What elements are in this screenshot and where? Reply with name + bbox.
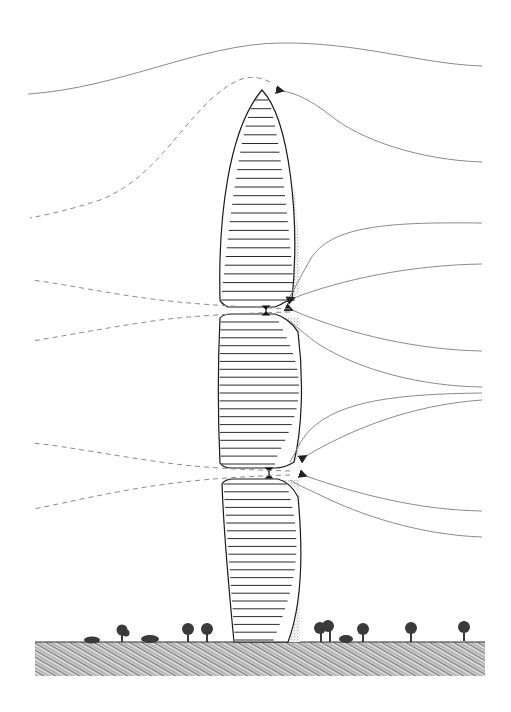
tower-segment-lower — [222, 479, 301, 642]
ground — [35, 642, 485, 676]
tower — [219, 90, 302, 642]
tree-icon — [458, 621, 470, 641]
tower-segment-upper — [220, 90, 295, 307]
tower-segment-middle — [219, 314, 302, 468]
streamline-lower-gap-4 — [290, 480, 482, 537]
tree-icon — [182, 623, 194, 642]
streamline-upper-gap-4 — [288, 320, 482, 387]
tower-wind-diagram — [0, 0, 511, 712]
tree-icon — [339, 635, 353, 643]
streamline-top — [28, 43, 482, 94]
gap-height-marker-upper — [263, 306, 269, 315]
tree-icon — [117, 625, 130, 643]
tree-icon — [314, 620, 334, 642]
streamline-upper-gap-1 — [288, 223, 482, 300]
gap-height-marker-lower — [266, 468, 272, 478]
ground-hatching — [35, 642, 485, 676]
tree-icon — [357, 623, 369, 642]
streamline-to-apex — [283, 91, 482, 162]
tree-icon — [84, 637, 100, 644]
streamline-lower-gap-3 — [306, 476, 482, 511]
streamline-upper-gap-2 — [294, 264, 482, 298]
tree-icon — [141, 635, 159, 643]
tree-icon — [405, 622, 417, 642]
streamline-lower-gap-2 — [306, 400, 482, 456]
tree-icon — [201, 623, 213, 642]
